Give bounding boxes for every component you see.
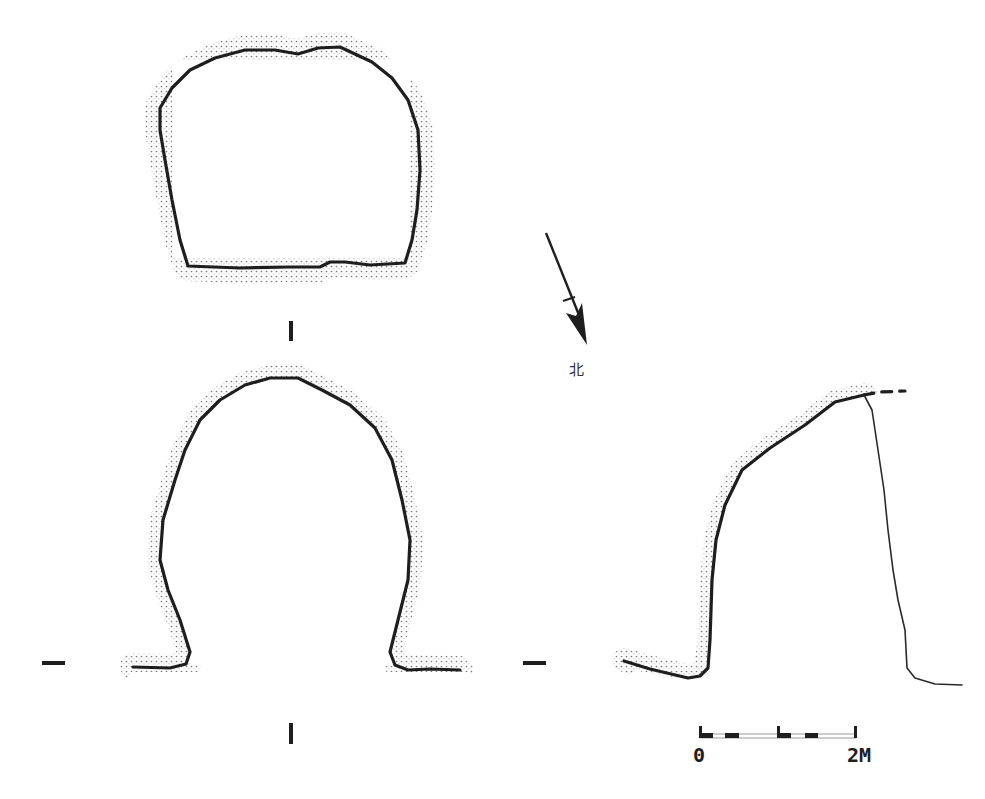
drawing-canvas: 北 0 2M <box>0 0 985 799</box>
scale-start-label: 0 <box>693 743 705 767</box>
section-1-view <box>130 378 470 692</box>
north-label: 北 <box>569 361 584 379</box>
plan-view <box>160 47 420 268</box>
section-2-view <box>624 391 962 700</box>
scale-end-label: 2M <box>847 743 871 767</box>
scale-bar <box>699 726 857 738</box>
section-mark-bottom <box>289 723 293 744</box>
section-mark-top <box>289 321 293 341</box>
north-arrow-icon <box>546 233 587 345</box>
section-dash-left <box>42 661 65 665</box>
section-dash-right <box>523 661 546 665</box>
